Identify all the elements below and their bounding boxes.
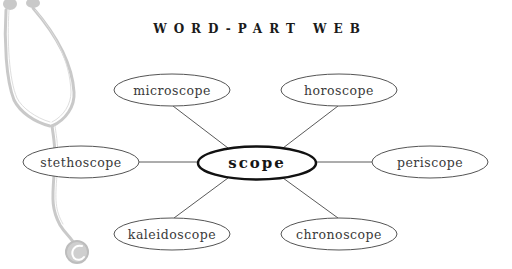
diagram-canvas (0, 0, 512, 269)
node-label-microscope: microscope (114, 74, 230, 106)
node-label-chronoscope: chronoscope (281, 218, 397, 250)
diagram-title: WORD-PART WEB (0, 22, 512, 36)
node-label-kaleidoscope: kaleidoscope (114, 218, 230, 250)
node-label-periscope: periscope (372, 146, 488, 178)
node-label-stethoscope: stethoscope (23, 146, 139, 178)
word-part-web-diagram: WORD-PART WEB scope microscope horoscope… (0, 0, 512, 269)
edge-scope-microscope (173, 106, 228, 148)
stethoscope-illustration-icon (3, 0, 88, 263)
edge-scope-kaleidoscope (174, 178, 228, 218)
center-node-label: scope (198, 146, 316, 180)
edge-scope-horoscope (283, 106, 338, 148)
edge-scope-chronoscope (283, 178, 338, 218)
node-label-horoscope: horoscope (281, 74, 397, 106)
